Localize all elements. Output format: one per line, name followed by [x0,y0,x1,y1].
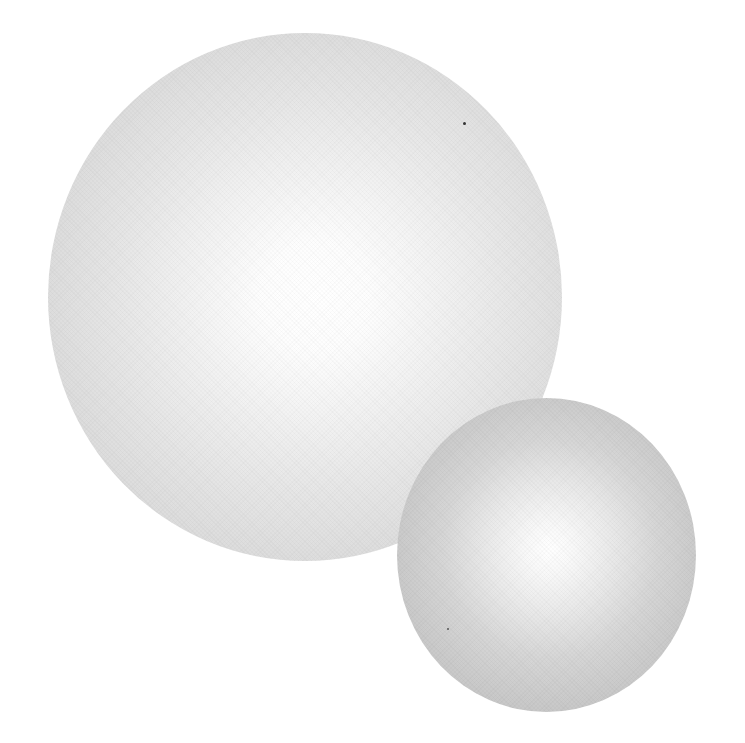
small-sphere [397,398,696,712]
scene [0,0,745,743]
dust-speck [447,628,449,630]
dust-speck [463,122,466,125]
small-sphere-texture [397,398,696,712]
